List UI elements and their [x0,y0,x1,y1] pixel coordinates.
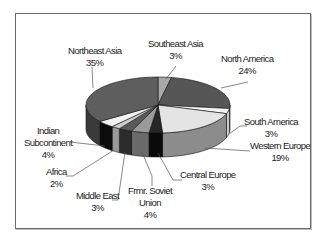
label-name: South America [244,116,298,128]
leader-northeast-asia [92,67,93,88]
label-western-europe: Western Europe 19% [250,140,310,164]
label-pct: 4% [128,209,172,221]
label-name: Africa [46,166,67,178]
label-name: Middle East [76,190,119,202]
pie-side-frmr-soviet-union [132,131,149,157]
label-indian-subcontinent: Indian Subcontinent 4% [24,125,72,161]
label-name-line2: Subcontinent [24,137,72,149]
label-central-europe: Central Europe 3% [180,169,236,193]
label-pct: 3% [148,50,203,62]
label-name-line1: Indian [24,125,72,137]
label-name: Northeast Asia [68,45,121,57]
label-northeast-asia: Northeast Asia 35% [68,45,121,69]
label-name: North America [221,53,273,65]
label-pct: 3% [76,202,119,214]
label-pct: 19% [250,152,310,164]
label-pct: 3% [180,181,236,193]
leader-africa [66,150,114,176]
label-north-america: North America 24% [221,53,273,77]
label-africa: Africa 2% [46,166,67,190]
label-south-america: South America 3% [244,116,298,140]
pie-side-central-europe [149,133,163,157]
label-pct: 35% [68,57,121,69]
label-pct: 24% [221,65,273,77]
pie-side-africa [112,127,119,153]
label-middle-east: Middle East 3% [76,190,119,214]
label-name: Western Europe [250,140,310,152]
label-name-line2: Union [128,197,172,209]
label-name: Southeast Asia [148,38,203,50]
pie-side-middle-east [119,129,131,155]
leader-north-america [221,82,248,88]
label-name: Central Europe [180,169,236,181]
label-pct: 3% [244,128,298,140]
leader-western-europe [205,148,250,151]
label-name-line1: Frmr. Soviet [128,185,172,197]
label-pct: 2% [46,178,67,190]
label-pct: 4% [24,149,72,161]
label-fmr-soviet-union: Frmr. Soviet Union 4% [128,185,172,221]
leader-southeast-asia [166,66,176,79]
label-southeast-asia: Southeast Asia 3% [148,38,203,62]
